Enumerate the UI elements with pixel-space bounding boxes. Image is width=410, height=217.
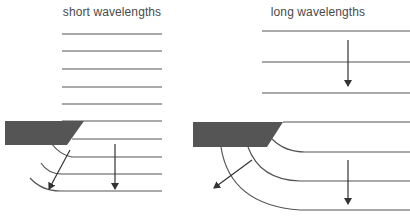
diffracted-wavefront xyxy=(272,139,410,152)
diffracted-wavefront xyxy=(221,147,410,210)
diffracted-wavefront xyxy=(41,163,162,174)
barrier xyxy=(193,122,283,147)
barrier xyxy=(5,121,84,145)
diffracted-direction-arrow xyxy=(49,150,70,189)
long-wavelength-panel xyxy=(193,31,410,210)
wave-diffraction-diagram xyxy=(0,0,410,217)
short-wavelength-panel xyxy=(5,34,162,191)
diffracted-direction-arrow xyxy=(214,160,252,188)
diffracted-wavefront xyxy=(30,178,162,191)
